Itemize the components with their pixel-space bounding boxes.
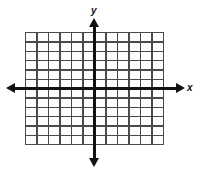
y-axis-line — [93, 26, 96, 158]
y-axis-top-arrowhead — [89, 18, 99, 27]
y-axis-bottom-arrowhead — [89, 158, 99, 167]
y-axis-label: y — [91, 6, 97, 16]
x-axis-left-arrowhead — [6, 83, 15, 93]
x-axis-right-arrowhead — [176, 83, 185, 93]
coordinate-plane-figure: x y — [0, 0, 197, 169]
x-axis-label: x — [187, 83, 193, 93]
